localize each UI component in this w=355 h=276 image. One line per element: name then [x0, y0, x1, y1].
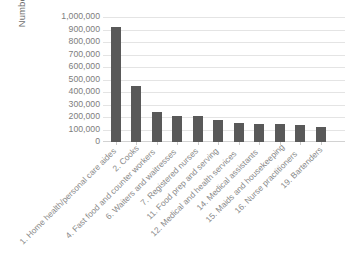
x-axis-tick-mark	[116, 142, 117, 145]
bar[interactable]	[316, 127, 326, 142]
y-axis-tick-label: 200,000	[38, 111, 100, 122]
bar[interactable]	[275, 124, 285, 142]
x-axis-tick-mark	[259, 142, 260, 145]
x-axis-tick-mark	[157, 142, 158, 145]
gridline	[103, 80, 345, 81]
gridline	[103, 42, 345, 43]
x-axis-tick-mark	[198, 142, 199, 145]
bar[interactable]	[111, 27, 121, 143]
gridline	[103, 17, 345, 18]
bar[interactable]	[213, 120, 223, 142]
bar[interactable]	[193, 116, 203, 142]
x-axis-tick-mark	[136, 142, 137, 145]
y-axis-tick-label: 400,000	[38, 86, 100, 97]
bar[interactable]	[234, 123, 244, 142]
y-axis-tick-label: 1,000,000	[38, 11, 100, 22]
y-axis-tick-labels: 1,000,000900,000800,000700,000600,000500…	[38, 11, 100, 148]
gridline	[103, 30, 345, 31]
x-axis-tick-mark	[239, 142, 240, 145]
bar-chart: Number of New Jobs 1,000,000900,000800,0…	[0, 0, 355, 276]
gridline	[103, 55, 345, 56]
y-axis-tick-label: 700,000	[38, 49, 100, 60]
bar[interactable]	[254, 124, 264, 142]
y-axis-tick-label: 800,000	[38, 36, 100, 47]
x-axis-tick-mark	[300, 142, 301, 145]
plot-area	[103, 17, 345, 142]
gridline	[103, 67, 345, 68]
bar[interactable]	[172, 116, 182, 142]
y-axis-tick-label: 100,000	[38, 124, 100, 135]
y-axis-tick-label: 600,000	[38, 61, 100, 72]
bar[interactable]	[131, 86, 141, 143]
y-axis-tick-label: 900,000	[38, 24, 100, 35]
y-axis-tick-label: 300,000	[38, 99, 100, 110]
x-axis-tick-mark	[177, 142, 178, 145]
bar[interactable]	[295, 125, 305, 142]
bar[interactable]	[152, 112, 162, 142]
y-axis-tick-label: 0	[38, 136, 100, 147]
y-axis-tick-label: 500,000	[38, 74, 100, 85]
y-axis-title: Number of New Jobs	[13, 0, 31, 40]
x-axis-tick-mark	[321, 142, 322, 145]
x-axis-tick-mark	[218, 142, 219, 145]
